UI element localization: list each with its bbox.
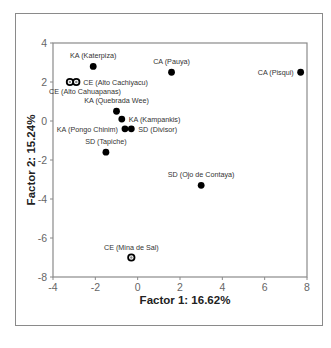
data-point: KA (Kampankis) <box>118 115 180 124</box>
data-point: SD (Tapiche) <box>85 137 127 155</box>
point-label: CA (Pisqui) <box>258 68 294 77</box>
filled-marker <box>118 116 125 123</box>
y-tick-label: -4 <box>38 193 47 205</box>
filled-marker <box>128 125 135 132</box>
filled-marker <box>103 149 110 156</box>
data-point: CA (Pauya) <box>153 57 190 75</box>
data-point: CE (Alto Cachiyacu) <box>73 78 148 87</box>
x-tick-label: -2 <box>91 281 100 293</box>
x-tick-label: 0 <box>135 281 141 293</box>
data-point: CA (Pisqui) <box>258 68 304 77</box>
filled-marker <box>122 125 129 132</box>
x-tick-label: 2 <box>177 281 183 293</box>
filled-marker <box>113 108 120 115</box>
filled-marker <box>297 69 304 76</box>
point-label: CE (Alto Cahuapanas) <box>49 87 121 96</box>
filled-marker <box>168 69 175 76</box>
point-label: KA (Quebrada Wee) <box>84 96 149 105</box>
y-tick-label: -6 <box>38 232 47 244</box>
y-tick-label: 4 <box>41 37 47 49</box>
y-axis-label: Factor 2: 15.24% <box>25 115 37 206</box>
y-tick-label: -8 <box>38 271 47 283</box>
data-point: KA (Katerpiza) <box>70 51 116 69</box>
data-point: KA (Pongo Chinim) <box>57 125 129 134</box>
data-points: KA (Katerpiza)CE (Alto Cachiyacu)CE (Alt… <box>49 51 304 260</box>
x-tick-label: 6 <box>262 281 268 293</box>
x-tick-label: -4 <box>48 281 57 293</box>
point-label: CA (Pauya) <box>153 57 190 66</box>
point-label: SD (Tapiche) <box>85 137 127 146</box>
x-axis-label: Factor 1: 16.62% <box>140 294 231 306</box>
y-tick-label: -2 <box>38 154 47 166</box>
ring-marker-center <box>75 81 77 83</box>
point-label: SD (Ojo de Contaya) <box>168 170 235 179</box>
point-label: CE (Mina de Sal) <box>104 243 159 252</box>
data-point: SD (Divisor) <box>128 125 177 134</box>
data-point: KA (Quebrada Wee) <box>84 96 149 114</box>
data-point: SD (Ojo de Contaya) <box>168 170 235 188</box>
point-label: CE (Alto Cachiyacu) <box>83 78 148 87</box>
x-tick-label: 4 <box>219 281 225 293</box>
ring-marker-center <box>69 81 71 83</box>
scatter-chart: -4-202468-8-6-4-2024 KA (Katerpiza)CE (A… <box>0 0 331 348</box>
filled-marker <box>90 63 97 70</box>
y-tick-label: 2 <box>41 76 47 88</box>
point-label: KA (Katerpiza) <box>70 51 116 60</box>
point-label: KA (Kampankis) <box>129 115 181 124</box>
data-point: CE (Mina de Sal) <box>104 243 159 261</box>
point-label: KA (Pongo Chinim) <box>57 125 118 134</box>
x-tick-label: 8 <box>304 281 310 293</box>
ring-marker-center <box>130 256 132 258</box>
point-label: SD (Divisor) <box>138 125 177 134</box>
y-tick-label: 0 <box>41 115 47 127</box>
filled-marker <box>198 182 205 189</box>
